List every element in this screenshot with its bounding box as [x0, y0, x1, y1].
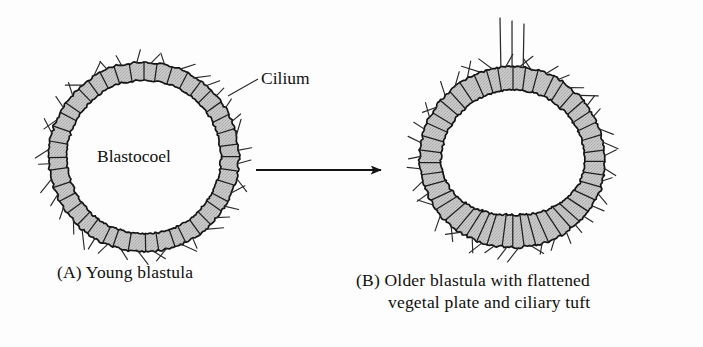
cilium [407, 167, 420, 168]
cilium [232, 114, 241, 121]
cilium [151, 54, 160, 63]
cilium [98, 244, 108, 253]
cilium [441, 82, 446, 97]
cilium-leader-line [228, 79, 258, 96]
cilium [604, 150, 616, 156]
cilium [180, 64, 195, 69]
leader-line-icon [228, 79, 258, 96]
cilium [194, 76, 211, 78]
ciliary-tuft-cilium [500, 18, 501, 66]
caption-panel-a: (A) Young blastula [57, 262, 193, 283]
cilium [479, 59, 492, 69]
cilium [462, 66, 481, 72]
cilium [100, 61, 107, 69]
cilium [435, 215, 441, 231]
cilium [469, 243, 482, 253]
cilium [417, 193, 429, 201]
cilium [604, 168, 616, 175]
cilium [236, 119, 241, 136]
cilium [593, 109, 600, 117]
cilium [35, 149, 49, 158]
ciliary-tuft-cilium [523, 24, 524, 67]
cilium [575, 225, 581, 233]
cilium [408, 136, 421, 142]
cilium [472, 237, 473, 253]
cilium [446, 232, 462, 234]
cilium [603, 142, 618, 149]
cilium [414, 122, 425, 129]
diagram-canvas [0, 0, 703, 347]
caption-panel-b-line1: (B) Older blastula with flattened [356, 270, 590, 290]
cilium [82, 230, 84, 250]
caption-panel-b-line2: vegetal plate and ciliary tuft [356, 291, 590, 313]
cilium [485, 246, 495, 253]
blastocoel-label: Blastocoel [97, 146, 171, 167]
cilium [39, 164, 50, 165]
cilium [598, 193, 607, 204]
cilium [56, 97, 64, 108]
cilium [60, 207, 64, 219]
cilium [546, 66, 558, 73]
cilium [508, 248, 519, 262]
cilium [413, 181, 423, 191]
cilium [206, 81, 220, 86]
cilium [498, 246, 508, 259]
caption-panel-b: (B) Older blastula with flattened vegeta… [356, 269, 590, 313]
cilium [580, 95, 599, 96]
cilium-label: Cilium [261, 68, 310, 89]
cilium [88, 239, 94, 249]
cilium [41, 179, 52, 193]
cilium [592, 206, 604, 211]
cilium [216, 88, 224, 96]
older-blastula-diagram [407, 18, 618, 262]
cilium [224, 206, 238, 209]
cilium [137, 50, 141, 63]
blastula-figure: Cilium Blastocoel (A) Young blastula (B)… [0, 0, 703, 347]
cilium [238, 148, 252, 151]
cilium [180, 244, 197, 251]
cilium [558, 75, 569, 80]
cilium [216, 217, 230, 218]
cilium [583, 216, 592, 222]
cilium [587, 96, 595, 106]
cilium [566, 231, 571, 243]
cilium [192, 237, 197, 248]
cilium [226, 99, 232, 107]
cilium [602, 178, 612, 181]
